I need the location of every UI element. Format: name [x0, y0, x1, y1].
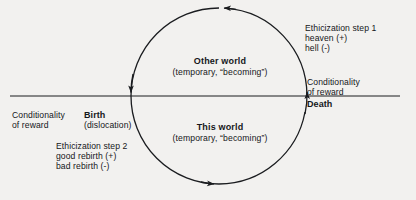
conditionality-right-line-2: of reward [307, 87, 360, 97]
region-label-this-world: This world (temporary, “becoming”) [162, 122, 278, 143]
crossing-sublabel-birth: (dislocation) [84, 120, 131, 130]
arc-upper-left [131, 8, 219, 96]
other-world-subtitle: (temporary, “becoming”) [162, 67, 278, 77]
ethicization-step-1-line-heaven: heaven (+) [305, 33, 376, 43]
annotation-conditionality-of-reward-right: Conditionality of reward [307, 77, 360, 97]
arrowhead-top-arc [224, 8, 236, 9]
this-world-title: This world [162, 122, 278, 133]
conditionality-right-line-1: Conditionality [307, 77, 360, 87]
ethicization-step-1-heading: Ethicization step 1 [305, 23, 376, 33]
arrowhead-bottom-arc [201, 182, 214, 184]
ethicization-step-2-line-bad: bad rebirth (-) [56, 161, 127, 171]
this-world-subtitle: (temporary, “becoming”) [162, 133, 278, 143]
annotation-ethicization-step-2: Ethicization step 2 good rebirth (+) bad… [56, 141, 127, 171]
region-label-other-world: Other world (temporary, “becoming”) [162, 56, 278, 77]
conditionality-left-line-1: Conditionality [12, 110, 65, 120]
ethicization-step-2-line-good: good rebirth (+) [56, 151, 127, 161]
arc-upper-right [225, 8, 307, 96]
diagram-canvas: Other world (temporary, “becoming”) This… [0, 0, 416, 200]
arrow-birth-down [131, 74, 133, 93]
annotation-ethicization-step-1: Ethicization step 1 heaven (+) hell (-) [305, 23, 376, 53]
annotation-conditionality-of-reward-left: Conditionality of reward [12, 110, 65, 130]
ethicization-step-1-line-hell: hell (-) [305, 43, 376, 53]
ethicization-step-2-heading: Ethicization step 2 [56, 141, 127, 151]
conditionality-left-line-2: of reward [12, 120, 65, 130]
other-world-title: Other world [162, 56, 278, 67]
crossing-label-death: Death [307, 99, 332, 110]
